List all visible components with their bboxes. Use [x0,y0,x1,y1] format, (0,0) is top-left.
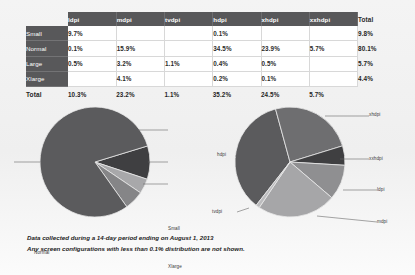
pie-right-label-mdpi: mdpi [377,219,387,224]
pie-right-svg [207,104,415,226]
pie-leader-line [317,216,377,222]
cell-total-ldpi: 10.3% [68,86,116,101]
row-header-normal: Normal [26,41,68,56]
pie-right-label-hdpi: hdpi [217,152,226,157]
cell-xlarge-tvdpi [165,71,213,86]
cell-large-tvdpi: 1.1% [165,56,213,71]
pie-chart-screen-density: xhdpi xxhdpi ldpi mdpi tvdpi hdpi [207,104,415,226]
cell-total-hdpi: 35.2% [213,86,261,101]
cell-normal-xxhdpi: 5.7% [309,41,357,56]
cell-total-xxhdpi: 5.7% [309,86,357,101]
cell-small-xxhdpi [309,26,357,41]
column-header-hdpi: hdpi [213,12,261,26]
column-header-total: Total [358,12,399,26]
cell-small-xhdpi [261,26,309,41]
cell-total-mdpi: 23.2% [116,86,164,101]
row-header-small: Small [26,26,68,41]
cell-large-total: 5.7% [358,56,399,71]
pie-right-label-xhdpi: xhdpi [369,112,380,117]
cell-large-xhdpi: 0.5% [261,56,309,71]
pie-left-label-small: Small [168,226,180,231]
table-row: Small 9.7% 0.1% 9.8% [26,26,398,41]
cell-xlarge-mdpi: 4.1% [116,71,164,86]
table-row: Normal 0.1% 15.9% 34.5% 23.9% 5.7% 80.1% [26,41,398,56]
cell-normal-ldpi: 0.1% [68,41,116,56]
column-header-xxhdpi: xxhdpi [309,12,357,26]
table-corner-cell [26,12,68,26]
cell-normal-mdpi: 15.9% [116,41,164,56]
pie-right-label-xxhdpi: xxhdpi [369,156,383,161]
cell-large-ldpi: 0.5% [68,56,116,71]
cell-small-tvdpi [165,26,213,41]
row-header-xlarge: Xlarge [26,71,68,86]
pie-left-svg [0,104,207,226]
column-header-tvdpi: tvdpi [165,12,213,26]
cell-normal-tvdpi [165,41,213,56]
cell-xlarge-ldpi [68,71,116,86]
column-header-xhdpi: xhdpi [261,12,309,26]
cell-xlarge-xhdpi: 0.1% [261,71,309,86]
column-header-ldpi: ldpi [68,12,116,26]
footnote-line-1: Data collected during a 14-day period en… [27,233,245,244]
table: ldpi mdpi tvdpi hdpi xhdpi xxhdpi Total … [26,12,398,101]
cell-normal-hdpi: 34.5% [213,41,261,56]
table-header-row: ldpi mdpi tvdpi hdpi xhdpi xxhdpi Total [26,12,398,26]
pie-left-label-xlarge: Xlarge [168,264,182,269]
pie-leader-line [237,208,249,212]
cell-total-xhdpi: 24.5% [261,86,309,101]
footnote: Data collected during a 14-day period en… [27,233,245,254]
cell-total-total [358,86,399,101]
pie-right-label-tvdpi: tvdpi [212,209,222,214]
row-header-total: Total [26,86,68,101]
cell-xlarge-hdpi: 0.2% [213,71,261,86]
cell-xlarge-xxhdpi [309,71,357,86]
cell-small-mdpi [116,26,164,41]
cell-large-mdpi: 3.2% [116,56,164,71]
cell-total-tvdpi: 1.1% [165,86,213,101]
pie-chart-screen-size: Normal Small Xlarge Large [0,104,207,226]
charts-area: Normal Small Xlarge Large xhdpi xxhdpi l… [0,104,415,226]
cell-large-hdpi: 0.4% [213,56,261,71]
table-total-row: Total 10.3% 23.2% 1.1% 35.2% 24.5% 5.7% [26,86,398,101]
cell-small-ldpi: 9.7% [68,26,116,41]
cell-xlarge-total: 4.4% [358,71,399,86]
cell-large-xxhdpi [309,56,357,71]
footnote-line-2: Any screen configurations with less than… [27,244,245,255]
table-row: Xlarge 4.1% 0.2% 0.1% 4.4% [26,71,398,86]
table-row: Large 0.5% 3.2% 1.1% 0.4% 0.5% 5.7% [26,56,398,71]
density-distribution-table: ldpi mdpi tvdpi hdpi xhdpi xxhdpi Total … [26,12,398,101]
cell-normal-total: 80.1% [358,41,399,56]
cell-normal-xhdpi: 23.9% [261,41,309,56]
column-header-mdpi: mdpi [116,12,164,26]
cell-small-total: 9.8% [358,26,399,41]
pie-right-label-ldpi: ldpi [377,187,385,192]
cell-small-hdpi: 0.1% [213,26,261,41]
row-header-large: Large [26,56,68,71]
